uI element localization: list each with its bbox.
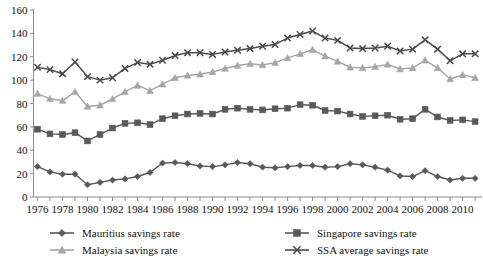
marker-square [397,116,403,122]
marker-square [410,116,416,122]
marker-square [97,132,103,138]
marker-square [347,111,353,117]
marker-square [60,132,66,138]
y-tick-label: 160 [11,4,28,16]
x-tick-label: 1976 [27,203,50,215]
legend-label: Mauritius savings rate [82,227,180,239]
marker-square [460,117,466,123]
marker-square [272,106,278,112]
marker-square [197,111,203,117]
x-tick-label: 1982 [102,203,124,215]
chart-canvas: 020406080100120140160 197619781980198219… [0,0,483,263]
y-tick-label: 120 [11,51,28,63]
marker-square [372,113,378,119]
y-tick-label: 20 [17,168,29,180]
marker-square [285,105,291,111]
marker-square [235,105,241,111]
marker-square [35,126,41,132]
x-tick-label: 1998 [302,203,325,215]
x-tick-label: 2008 [427,203,450,215]
marker-square [160,116,166,122]
y-tick-label: 60 [17,121,29,133]
marker-square [210,111,216,117]
x-tick-label: 2010 [452,203,475,215]
x-tick-label: 1988 [177,203,200,215]
marker-square [435,114,441,120]
legend-label: SSA average savings rate [317,244,429,256]
x-tick-label: 1978 [52,203,75,215]
marker-square [122,120,128,126]
legend-label: Malaysia savings rate [82,244,177,256]
marker-square [147,122,153,128]
marker-square [422,106,428,112]
x-tick-label: 1980 [77,203,100,215]
marker-square [335,108,341,114]
marker-square [310,102,316,108]
y-tick-label: 140 [11,27,28,39]
marker-square [172,113,178,119]
x-tick-label: 1994 [252,203,275,215]
y-tick-label: 40 [17,144,29,156]
marker-square [385,112,391,118]
x-tick-label: 1984 [127,203,150,215]
marker-square [110,125,116,131]
marker-square [222,106,228,112]
y-tick-label: 80 [17,98,29,110]
x-tick-label: 2000 [327,203,350,215]
marker-square [260,107,266,113]
marker-square [472,119,478,125]
marker-square [447,118,453,124]
marker-square [322,108,328,114]
marker-square [72,130,78,136]
marker-square [247,106,253,112]
marker-square [294,230,301,237]
x-tick-label: 2004 [377,203,400,215]
marker-square [85,138,91,144]
marker-square [47,131,53,137]
y-tick-label: 0 [22,191,28,203]
x-tick-label: 2006 [402,203,425,215]
x-tick-label: 1990 [202,203,225,215]
y-tick-label: 100 [11,74,28,86]
legend-label: Singapore savings rate [317,227,417,239]
x-tick-label: 1986 [152,203,175,215]
x-tick-label: 2002 [352,203,374,215]
marker-square [297,102,303,108]
marker-square [135,120,141,126]
savings-rate-line-chart: 020406080100120140160 197619781980198219… [0,0,483,263]
marker-square [185,111,191,117]
marker-square [360,113,366,119]
x-tick-label: 1992 [227,203,249,215]
x-tick-label: 1996 [277,203,300,215]
